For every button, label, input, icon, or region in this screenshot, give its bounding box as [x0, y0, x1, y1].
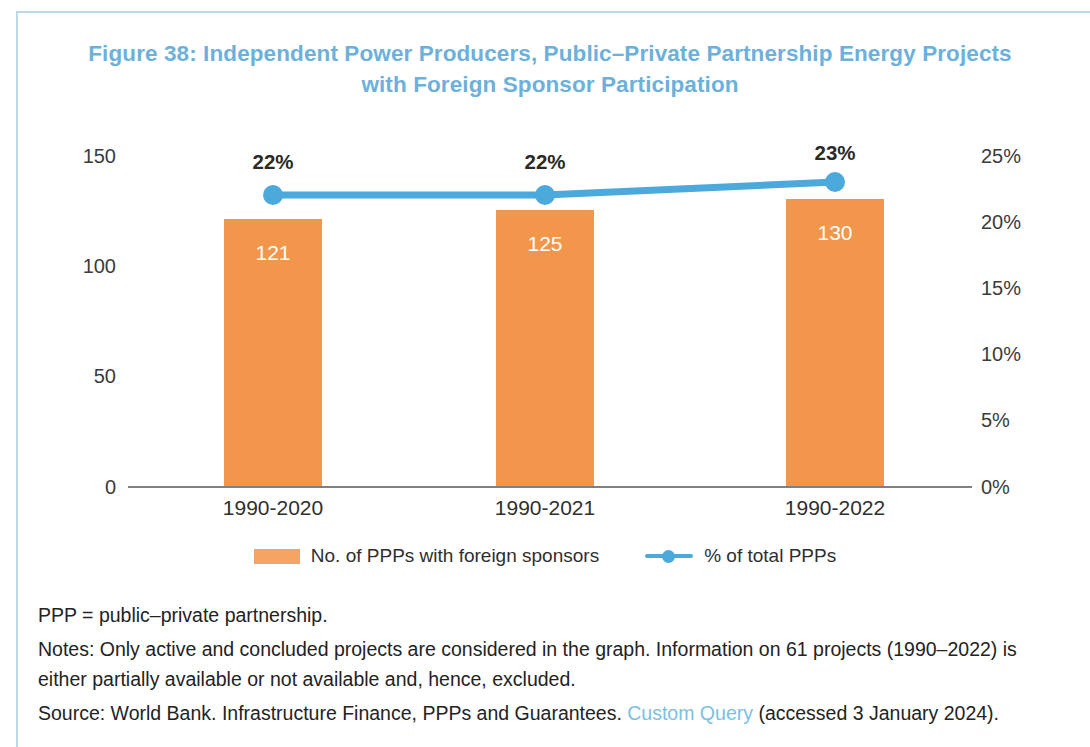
line-marker-1990-2020[interactable] — [263, 185, 283, 205]
x-axis-category-1990-2020: 1990-2020 — [193, 496, 353, 520]
legend-item-ppps-with-foreign-sponsors[interactable]: No. of PPPs with foreign sponsors — [254, 545, 599, 567]
figure-notes: PPP = public–private partnership. Notes:… — [38, 600, 1068, 732]
x-axis-category-1990-2022: 1990-2022 — [755, 496, 915, 520]
line-marker-1990-2021[interactable] — [535, 185, 555, 205]
chart-plot-area: 150 100 50 0 25% 20% 15% 10% 5% 0% 121 1… — [0, 0, 1090, 600]
legend-label-pct-of-total-ppps: % of total PPPs — [704, 545, 836, 567]
note-source-link-custom-query[interactable]: Custom Query — [627, 702, 753, 724]
pct-label-1990-2021: 22% — [495, 150, 595, 174]
legend-item-pct-of-total-ppps[interactable]: % of total PPPs — [645, 545, 836, 567]
chart-legend: No. of PPPs with foreign sponsors % of t… — [0, 545, 1090, 567]
note-abbreviation: PPP = public–private partnership. — [38, 600, 1068, 630]
legend-line-marker-icon — [645, 548, 693, 564]
legend-label-ppps-with-foreign-sponsors: No. of PPPs with foreign sponsors — [311, 545, 599, 567]
x-axis-category-1990-2021: 1990-2021 — [465, 496, 625, 520]
line-marker-1990-2022[interactable] — [825, 172, 845, 192]
figure-container: Figure 38: Independent Power Producers, … — [0, 0, 1090, 747]
legend-bar-swatch-icon — [254, 549, 300, 564]
note-source-line: Source: World Bank. Infrastructure Finan… — [38, 698, 1068, 728]
note-source-prefix: Source: World Bank. Infrastructure Finan… — [38, 702, 627, 724]
note-source-suffix: (accessed 3 January 2024). — [753, 702, 999, 724]
pct-label-1990-2020: 22% — [223, 150, 323, 174]
note-notes-line: Notes: Only active and concluded project… — [38, 634, 1068, 694]
pct-label-1990-2022: 23% — [785, 141, 885, 165]
